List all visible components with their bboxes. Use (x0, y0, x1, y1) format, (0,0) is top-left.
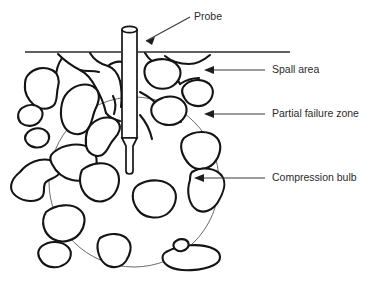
probe-shaft (122, 26, 137, 174)
label-compression-bulb: Compression bulb (272, 171, 357, 183)
probe-leader (146, 17, 190, 45)
label-probe: Probe (194, 10, 222, 22)
diagram-root: Probe Spall area Partial failure zone Co… (0, 0, 391, 286)
aggregate-particles (11, 59, 224, 270)
technical-diagram: Probe Spall area Partial failure zone Co… (0, 0, 391, 286)
label-spall-area: Spall area (272, 63, 319, 75)
partial-failure-zone-leader (204, 110, 265, 118)
label-partial-failure-zone: Partial failure zone (272, 107, 359, 119)
spall-area-leader (204, 66, 265, 74)
